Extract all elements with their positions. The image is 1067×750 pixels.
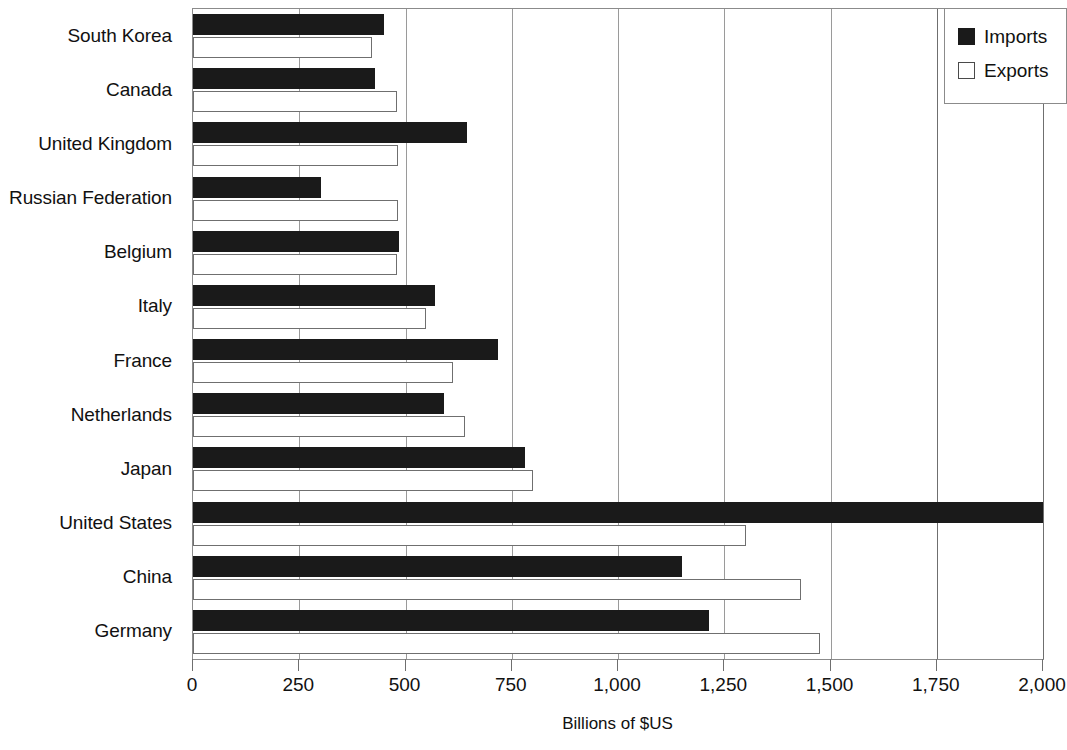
bar-group (193, 226, 1043, 280)
x-axis-tick-label: 1,250 (699, 675, 747, 694)
x-axis-tick-label: 1,750 (912, 675, 960, 694)
y-axis-label: United States (0, 496, 183, 550)
y-axis-label: Canada (0, 62, 183, 116)
y-axis-label: Netherlands (0, 387, 183, 441)
bar-exports (193, 145, 398, 166)
bar-exports (193, 416, 465, 437)
legend-item: Imports (958, 19, 1066, 53)
x-axis-tick-label: 750 (495, 675, 527, 694)
bar-exports (193, 470, 533, 491)
bar-imports (193, 556, 682, 577)
y-axis-label: United Kingdom (0, 116, 183, 170)
bars-layer (193, 9, 1043, 659)
bar-imports (193, 393, 444, 414)
bar-imports (193, 177, 321, 198)
bar-exports (193, 525, 746, 546)
legend-label: Imports (984, 27, 1047, 46)
bar-exports (193, 200, 398, 221)
x-axis-title: Billions of $US (192, 714, 1043, 734)
x-axis-tick-label: 250 (282, 675, 314, 694)
x-axis-tick-label: 1,000 (593, 675, 641, 694)
x-axis-tick-labels: 02505007501,0001,2501,5001,7502,000 (192, 675, 1043, 701)
horizontal-bar-chart: South KoreaCanadaUnited KingdomRussian F… (0, 0, 1067, 750)
bar-exports (193, 579, 801, 600)
legend-swatch-icon (958, 28, 975, 45)
plot-area (192, 8, 1044, 660)
bar-imports (193, 339, 498, 360)
bar-group (193, 63, 1043, 117)
x-axis-tick (723, 659, 724, 671)
bar-imports (193, 610, 709, 631)
bar-imports (193, 68, 375, 89)
y-axis-label: Belgium (0, 225, 183, 279)
bar-imports (193, 14, 384, 35)
bar-exports (193, 37, 372, 58)
x-axis-tick-marks (192, 659, 1043, 672)
chart-legend: ImportsExports (944, 8, 1067, 104)
bar-exports (193, 254, 397, 275)
x-axis-tick-label: 500 (389, 675, 421, 694)
bar-exports (193, 362, 453, 383)
bar-imports (193, 231, 399, 252)
x-axis-tick (1042, 659, 1043, 671)
y-axis-label: Germany (0, 604, 183, 658)
bar-group (193, 388, 1043, 442)
y-axis-label: Japan (0, 441, 183, 495)
bar-group (193, 117, 1043, 171)
x-axis-tick-label: 1,500 (806, 675, 854, 694)
bar-imports (193, 285, 435, 306)
x-axis-tick (617, 659, 618, 671)
y-axis-label: China (0, 550, 183, 604)
bar-exports (193, 633, 820, 654)
bar-exports (193, 308, 426, 329)
x-axis-tick (192, 659, 193, 671)
bar-group (193, 605, 1043, 659)
legend-swatch-icon (958, 62, 975, 79)
x-axis-tick (511, 659, 512, 671)
y-axis-label: South Korea (0, 8, 183, 62)
bar-group (193, 334, 1043, 388)
bar-group (193, 551, 1043, 605)
bar-group (193, 497, 1043, 551)
x-axis-tick-label: 2,000 (1018, 675, 1066, 694)
y-axis-category-labels: South KoreaCanadaUnited KingdomRussian F… (0, 8, 183, 658)
legend-item: Exports (958, 53, 1066, 87)
y-axis-label: Italy (0, 279, 183, 333)
x-axis-tick (830, 659, 831, 671)
x-axis-tick (936, 659, 937, 671)
bar-group (193, 442, 1043, 496)
gridline (1043, 9, 1044, 659)
y-axis-label: France (0, 333, 183, 387)
bar-imports (193, 122, 467, 143)
legend-label: Exports (984, 61, 1048, 80)
bar-group (193, 280, 1043, 334)
bar-imports (193, 502, 1043, 523)
x-axis-tick-label: 0 (187, 675, 198, 694)
bar-group (193, 9, 1043, 63)
bar-imports (193, 447, 525, 468)
bar-exports (193, 91, 397, 112)
bar-group (193, 172, 1043, 226)
y-axis-label: Russian Federation (0, 171, 183, 225)
x-axis-tick (405, 659, 406, 671)
x-axis-tick (298, 659, 299, 671)
